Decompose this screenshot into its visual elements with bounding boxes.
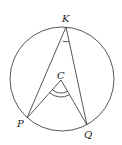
label-c: C [57,70,65,81]
label-q: Q [84,129,92,140]
label-p: P [16,118,24,129]
angle-mark-k [63,41,69,42]
label-k: K [61,13,70,24]
circle-diagram: K C P Q [0,0,122,145]
segment-kq [66,27,87,125]
segment-cq [61,80,87,125]
angle-mark-c-inner [52,90,67,93]
segment-cp [27,80,61,118]
